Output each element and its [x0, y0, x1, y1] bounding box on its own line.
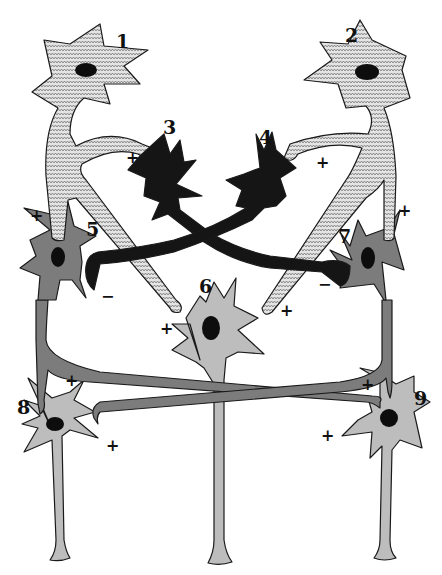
neuron-8 — [22, 378, 98, 561]
label-neuron-8: 8 — [17, 396, 30, 418]
label-neuron-5: 5 — [86, 218, 99, 240]
neuron-6 — [172, 278, 264, 564]
sign-2-to-6: + — [280, 301, 293, 320]
sign-7-to-9: + — [321, 426, 334, 445]
nucleus-1 — [75, 63, 97, 77]
sign-7-to-8: + — [106, 436, 119, 455]
sign-1-to-6: + — [160, 319, 173, 338]
nucleus-7 — [361, 247, 375, 269]
nucleus-5 — [51, 247, 65, 267]
label-neuron-4: 4 — [259, 126, 272, 148]
sign-3-to-7: − — [318, 275, 331, 294]
sign-4-to-5: − — [101, 287, 114, 306]
label-neuron-9: 9 — [414, 387, 427, 409]
nucleus-9 — [380, 409, 398, 427]
nucleus-2 — [355, 64, 379, 80]
nucleus-6 — [202, 316, 220, 340]
label-neuron-3: 3 — [163, 116, 176, 138]
label-neuron-7: 7 — [338, 225, 351, 247]
sign-5-to-9: + — [361, 375, 374, 394]
sign-1-to-3: + — [126, 148, 139, 167]
label-neuron-2: 2 — [345, 24, 358, 46]
neural-circuit-diagram: 1 2 3 4 5 6 7 8 9 + + + + + + − − + + + … — [0, 0, 442, 575]
nucleus-8 — [46, 417, 64, 431]
sign-2-to-4: + — [316, 153, 329, 172]
label-neuron-6: 6 — [199, 275, 212, 297]
label-neuron-1: 1 — [116, 30, 129, 52]
sign-1-to-5: + — [30, 206, 43, 225]
sign-5-to-8: + — [65, 371, 78, 390]
sign-2-to-7: + — [398, 201, 411, 220]
